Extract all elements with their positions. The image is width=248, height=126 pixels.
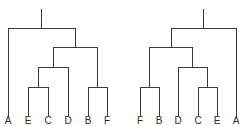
dendrogram-figure: AECDBF FBDCEA <box>0 0 248 126</box>
leaf-label-B: B <box>156 115 163 126</box>
leaf-label-F: F <box>137 115 143 126</box>
leaf-label-D: D <box>174 115 181 126</box>
tree-right: FBDCEA <box>137 9 240 126</box>
leaf-label-B: B <box>85 115 92 126</box>
leaf-label-C: C <box>194 115 201 126</box>
leaf-label-A: A <box>5 115 12 126</box>
leaf-label-F: F <box>104 115 110 126</box>
leaf-label-D: D <box>64 115 71 126</box>
leaf-label-E: E <box>214 115 221 126</box>
tree-left: AECDBF <box>5 9 110 126</box>
leaf-label-C: C <box>44 115 51 126</box>
leaf-label-A: A <box>233 115 240 126</box>
leaf-label-E: E <box>25 115 32 126</box>
